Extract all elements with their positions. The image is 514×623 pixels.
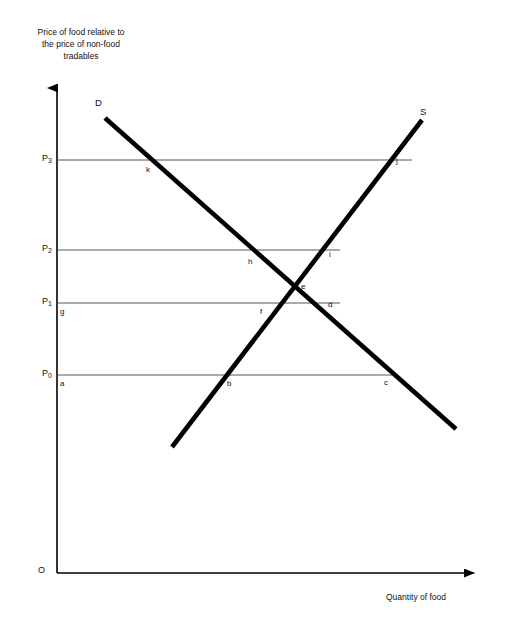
tick-label-P2-sub: 2 [48, 247, 52, 254]
tick-label-P3: P3 [26, 153, 52, 163]
x-axis-title: Quantity of food [386, 591, 506, 603]
tick-label-P0: P0 [26, 368, 52, 378]
tick-label-P0-sub: 0 [48, 372, 52, 379]
supply-curve [172, 120, 422, 447]
origin-label: O [38, 565, 45, 575]
curves [105, 118, 456, 447]
point-label-a: a [60, 379, 64, 388]
point-label-i: i [329, 250, 331, 259]
supply-demand-figure: Price of food relative to the price of n… [0, 0, 514, 623]
demand-curve [105, 118, 456, 429]
axis-lines [57, 88, 474, 573]
point-label-f: f [260, 307, 262, 316]
y-axis-title: Price of food relative to the price of n… [6, 26, 156, 62]
point-label-d: d [328, 300, 332, 309]
point-label-k: k [146, 165, 150, 174]
tick-label-P3-sub: 3 [48, 157, 52, 164]
tick-label-P1-sub: 1 [48, 300, 52, 307]
demand-curve-label: D [95, 97, 102, 108]
point-label-e: e [301, 282, 305, 291]
point-label-c: c [384, 378, 388, 387]
chart-canvas [0, 0, 514, 623]
tick-label-P2: P2 [26, 243, 52, 253]
point-label-g: g [60, 307, 64, 316]
point-label-j: j [396, 156, 398, 165]
supply-curve-label: S [420, 106, 426, 117]
tick-label-P1: P1 [26, 296, 52, 306]
point-label-h: h [248, 257, 252, 266]
point-label-b: b [227, 379, 231, 388]
